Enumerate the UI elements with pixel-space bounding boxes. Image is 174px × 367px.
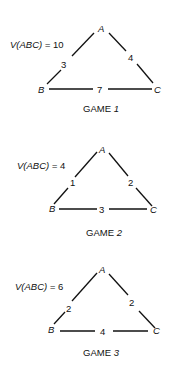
game-2-vertex-b: B	[49, 203, 56, 214]
game-3-edge-ac-upper	[109, 274, 128, 295]
game-3-vertex-a: A	[98, 264, 105, 275]
game-1-title: GAME 1	[83, 103, 119, 114]
game-2-value-label: V(ABC) = 4	[17, 160, 65, 171]
game-2-edge-ab-upper	[75, 152, 97, 177]
game-2-vertex-a: A	[98, 144, 105, 155]
game-diagrams: V(ABC) = 10 A B C 3 4 7 GAME 1 V(ABC) = …	[0, 0, 174, 367]
game-1-vertex-c: C	[154, 84, 161, 95]
game-1-edge-ac-lower	[137, 64, 153, 83]
game-2-title: GAME 2	[86, 227, 123, 238]
game-2-edge-ab-weight: 1	[70, 177, 75, 188]
game-1-edge-ac-weight: 4	[128, 52, 133, 63]
game-1-edge-ab-upper	[72, 33, 94, 56]
game-2-diagram: V(ABC) = 4 A B C 1 2 3 GAME 2	[17, 144, 157, 238]
game-1-edge-ab-weight: 3	[61, 59, 66, 70]
game-1-value-label: V(ABC) = 10	[10, 39, 64, 50]
game-2-edge-ab-lower	[54, 188, 68, 204]
game-3-diagram: V(ABC) = 6 A B C 2 2 4 GAME 3	[15, 264, 160, 358]
game-2-edge-ac-upper	[109, 153, 128, 176]
game-1-vertex-a: A	[97, 23, 104, 34]
game-2-edge-ac-lower	[136, 188, 152, 206]
game-3-edge-ac-weight: 2	[129, 297, 134, 308]
game-3-edge-bc-weight: 4	[100, 326, 105, 337]
game-1-edge-ac-upper	[109, 33, 126, 51]
game-3-vertex-b: B	[48, 324, 55, 335]
game-2-edge-ac-weight: 2	[128, 177, 133, 188]
game-3-edge-ac-lower	[139, 311, 155, 328]
game-3-edge-ab-weight: 2	[66, 303, 71, 314]
game-1-diagram: V(ABC) = 10 A B C 3 4 7 GAME 1	[10, 23, 161, 114]
game-1-edge-ab-lower	[47, 70, 61, 84]
game-3-edge-ab-upper	[72, 273, 97, 301]
game-1-edge-bc-weight: 7	[97, 84, 102, 95]
game-3-edge-ab-lower	[54, 312, 65, 324]
game-3-title: GAME 3	[83, 347, 120, 358]
game-3-value-label: V(ABC) = 6	[15, 281, 63, 292]
game-1-vertex-b: B	[38, 84, 45, 95]
game-2-edge-bc-weight: 3	[99, 204, 104, 215]
